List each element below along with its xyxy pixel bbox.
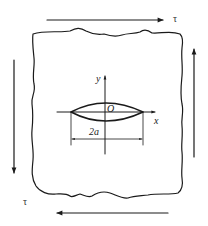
y-axis-label: y [95, 73, 101, 84]
origin-label: O [107, 103, 114, 114]
x-axis-label: x [153, 115, 159, 126]
crack-shear-diagram: τ τ x y O 2a [0, 0, 208, 226]
tau-label-bottom-left: τ [23, 196, 27, 207]
tau-label-top: τ [173, 13, 177, 24]
crack-length-label: 2a [89, 126, 99, 137]
